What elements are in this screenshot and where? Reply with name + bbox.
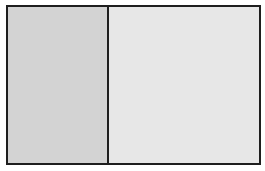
right-panel <box>109 7 259 163</box>
diagram-frame <box>6 5 261 165</box>
left-panel <box>8 7 109 163</box>
